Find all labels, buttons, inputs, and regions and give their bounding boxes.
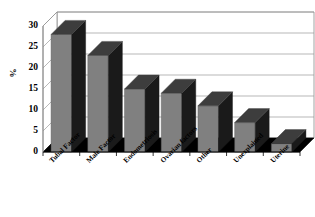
bar-1 bbox=[88, 41, 123, 152]
bar-4 bbox=[198, 92, 233, 152]
bar-front-face bbox=[51, 34, 72, 152]
plot-area bbox=[0, 0, 315, 217]
bar-front-face bbox=[198, 106, 219, 152]
bar-0 bbox=[51, 20, 86, 152]
bar-chart: % 051015202530 Tubal FactorMale FactorEn… bbox=[0, 0, 315, 217]
